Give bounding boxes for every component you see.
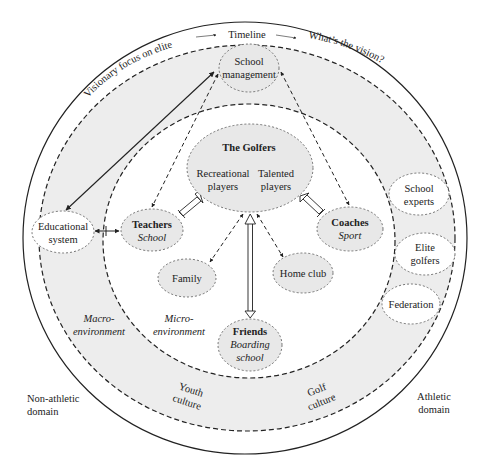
node-school-experts[interactable]: School experts [389,173,449,215]
node-federation[interactable]: Federation [382,284,440,324]
school-management-line2: management [222,69,276,80]
node-friends[interactable]: Friends Boarding school [218,319,282,371]
athletic-label-1: Athletic [417,391,451,402]
school-experts-line1: School [404,183,433,194]
timeline-label: Timeline [228,29,266,40]
node-educational-system[interactable]: Educational system [32,211,94,253]
coaches-title: Coaches [331,217,368,228]
macro-label-1: Macro- [82,313,115,324]
family-label: Family [172,273,203,284]
micro-label-2: environment [153,326,206,337]
teachers-title: Teachers [132,219,172,230]
golfers-talented-2: players [261,181,291,192]
node-home-club[interactable]: Home club [273,253,333,293]
golf-development-diagram: Visionary focus on elite What’s the visi… [0,0,496,475]
non-athletic-label-1: Non-athletic [27,393,80,404]
node-golfers[interactable]: The Golfers Recreational players Talente… [187,124,313,212]
golfers-talented-1: Talented [258,168,295,179]
home-club-label: Home club [280,268,326,279]
teachers-subtitle: School [138,232,167,243]
athletic-label-2: domain [418,404,450,415]
school-management-line1: School [234,56,263,67]
golfers-title: The Golfers [222,142,275,153]
friends-title: Friends [233,326,267,337]
educational-line1: Educational [38,221,88,232]
elite-golfers-line2: golfers [410,255,439,266]
school-experts-line2: experts [404,196,434,207]
coaches-subtitle: Sport [339,230,363,241]
node-teachers[interactable]: Teachers School [121,209,183,251]
node-coaches[interactable]: Coaches Sport [317,207,383,251]
node-school-management[interactable]: School management [219,44,279,92]
macro-label-2: environment [73,326,126,337]
friends-sub1: Boarding [230,339,269,350]
federation-label: Federation [389,299,435,310]
micro-label-1: Micro- [164,313,194,324]
node-elite-golfers[interactable]: Elite golfers [395,233,455,275]
non-athletic-label-2: domain [27,406,59,417]
elite-golfers-line1: Elite [415,242,435,253]
golfers-recreational-1: Recreational [196,168,249,179]
friends-sub2: school [236,352,263,363]
golfers-recreational-2: players [208,181,238,192]
educational-line2: system [48,234,77,245]
node-family[interactable]: Family [158,259,216,297]
